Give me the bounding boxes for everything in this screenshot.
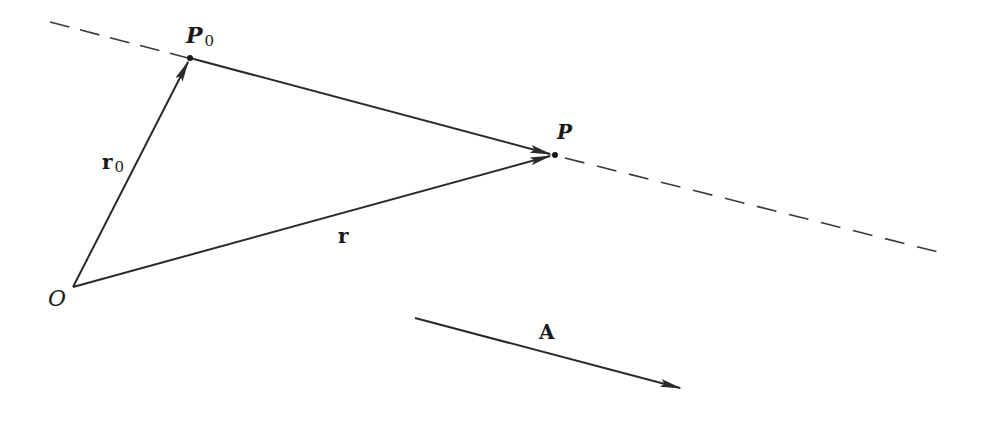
label-p0: P0 [186, 24, 214, 49]
dashed-line-left [50, 22, 188, 58]
label-p: P [557, 122, 572, 142]
label-r: r [338, 226, 349, 246]
vector-r0 [73, 62, 188, 287]
point-p [552, 152, 558, 158]
label-o: O [48, 288, 66, 310]
vector-diagram-canvas [0, 0, 982, 424]
label-a: A [539, 322, 555, 342]
label-r0: r0 [102, 152, 124, 175]
vector-p0-to-p [190, 58, 550, 154]
point-p0 [187, 55, 193, 61]
vector-r [73, 156, 550, 287]
dashed-line-right [565, 158, 938, 252]
